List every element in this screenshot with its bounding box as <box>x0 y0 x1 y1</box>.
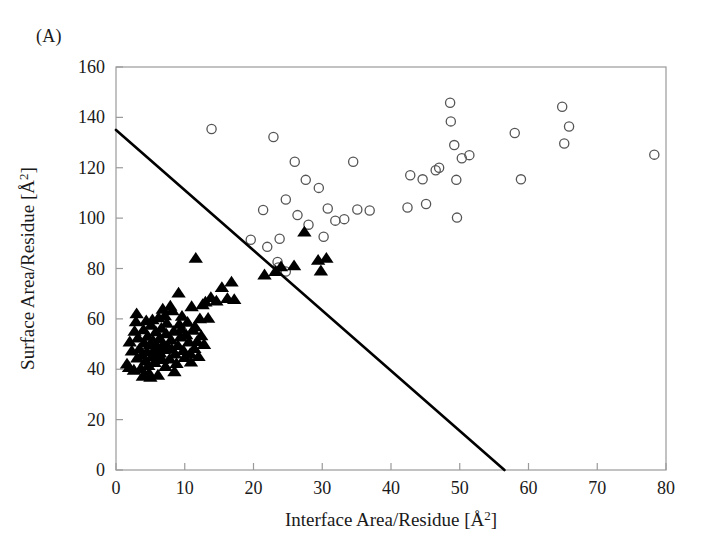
x-tick-label: 30 <box>313 478 331 498</box>
series-open-circles <box>207 98 659 276</box>
data-point-open-circle <box>275 234 284 243</box>
data-point-open-circle <box>290 157 299 166</box>
x-tick-label: 70 <box>588 478 606 498</box>
data-point-open-circle <box>246 235 255 244</box>
x-axis-ticks: 01020304050607080 <box>112 463 676 498</box>
data-point-open-circle <box>560 139 569 148</box>
data-point-open-circle <box>650 150 659 159</box>
plot-frame <box>116 67 666 470</box>
data-point-open-circle <box>353 205 362 214</box>
x-tick-label: 50 <box>451 478 469 498</box>
data-point-open-circle <box>446 98 455 107</box>
data-point-open-circle <box>406 171 415 180</box>
data-point-open-circle <box>418 175 427 184</box>
series-filled-triangles <box>120 226 334 382</box>
data-point-filled-triangle <box>189 252 203 263</box>
y-axis-title: Surface Area/Residue [Å2] <box>16 167 38 370</box>
data-point-open-circle <box>446 117 455 126</box>
y-tick-label: 160 <box>78 57 105 77</box>
data-point-open-circle <box>340 215 349 224</box>
data-point-open-circle <box>403 203 412 212</box>
data-point-filled-triangle <box>319 252 333 263</box>
data-point-open-circle <box>365 206 374 215</box>
data-point-open-circle <box>450 140 459 149</box>
data-point-filled-triangle <box>184 300 198 311</box>
data-point-open-circle <box>331 216 340 225</box>
data-point-filled-triangle <box>257 269 271 280</box>
y-tick-label: 40 <box>87 359 105 379</box>
data-point-filled-triangle <box>297 226 311 237</box>
y-tick-label: 60 <box>87 309 105 329</box>
figure-panel-a: (A) 01020304050607080 020406080100120140… <box>0 0 708 553</box>
data-point-open-circle <box>465 151 474 160</box>
data-point-open-circle <box>452 175 461 184</box>
x-tick-label: 80 <box>657 478 675 498</box>
scatter-plot: 01020304050607080 020406080100120140160 … <box>0 0 708 553</box>
data-point-filled-triangle <box>314 265 328 276</box>
data-point-open-circle <box>314 183 323 192</box>
data-point-open-circle <box>323 204 332 213</box>
data-point-open-circle <box>319 232 328 241</box>
data-point-open-circle <box>293 211 302 220</box>
x-tick-label: 60 <box>520 478 538 498</box>
data-point-open-circle <box>421 199 430 208</box>
data-point-open-circle <box>281 195 290 204</box>
data-point-filled-triangle <box>224 276 238 287</box>
y-tick-label: 100 <box>78 208 105 228</box>
data-point-open-circle <box>349 157 358 166</box>
data-point-filled-triangle <box>129 307 143 318</box>
data-point-open-circle <box>301 175 310 184</box>
x-tick-label: 40 <box>382 478 400 498</box>
y-tick-label: 140 <box>78 107 105 127</box>
x-tick-label: 20 <box>245 478 263 498</box>
data-point-open-circle <box>269 132 278 141</box>
x-tick-label: 0 <box>112 478 121 498</box>
y-tick-label: 120 <box>78 158 105 178</box>
y-tick-label: 80 <box>87 259 105 279</box>
x-tick-label: 10 <box>176 478 194 498</box>
data-point-filled-triangle <box>171 287 185 298</box>
y-tick-label: 0 <box>96 460 105 480</box>
data-point-open-circle <box>510 128 519 137</box>
data-point-open-circle <box>207 124 216 133</box>
data-point-open-circle <box>259 205 268 214</box>
data-point-open-circle <box>564 122 573 131</box>
x-axis-title: Interface Area/Residue [Å2] <box>285 508 497 530</box>
data-point-open-circle <box>558 102 567 111</box>
y-tick-label: 20 <box>87 410 105 430</box>
data-point-open-circle <box>452 213 461 222</box>
data-point-open-circle <box>263 242 272 251</box>
data-point-filled-triangle <box>287 260 301 271</box>
data-point-open-circle <box>516 175 525 184</box>
